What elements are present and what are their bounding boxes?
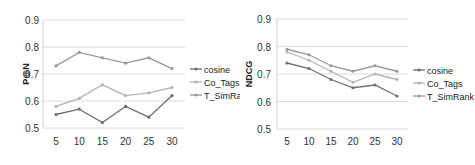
series-t-simrank xyxy=(54,51,173,70)
legend-label: Co_Tags xyxy=(427,79,463,89)
data-point xyxy=(147,116,150,119)
data-point xyxy=(101,121,104,124)
x-tick-label: 15 xyxy=(325,136,337,147)
data-point xyxy=(285,61,288,64)
data-point xyxy=(351,70,354,73)
data-point xyxy=(395,78,398,81)
data-point xyxy=(329,78,332,81)
legend-label: cosine xyxy=(204,65,230,75)
data-point xyxy=(147,56,150,59)
series-cosine xyxy=(54,94,173,124)
data-point xyxy=(54,105,57,108)
data-point xyxy=(285,50,288,53)
x-tick-label: 30 xyxy=(166,136,178,147)
y-tick-label: 0.5 xyxy=(25,123,39,134)
chart-ndcg: 0.50.60.70.80.9NDCG51015202530cosineCo_T… xyxy=(240,0,475,165)
data-point xyxy=(101,56,104,59)
y-tick-label: 0.9 xyxy=(25,15,39,26)
data-point xyxy=(307,53,310,56)
x-tick-label: 30 xyxy=(391,136,403,147)
data-point xyxy=(78,97,81,100)
data-point xyxy=(351,86,354,89)
data-point xyxy=(78,51,81,54)
data-point xyxy=(54,113,57,116)
data-point xyxy=(170,94,173,97)
y-tick-label: 0.5 xyxy=(257,124,271,135)
data-point xyxy=(395,94,398,97)
data-point xyxy=(307,59,310,62)
x-tick-label: 25 xyxy=(369,136,381,147)
legend-item: Co_Tags xyxy=(190,78,240,88)
x-tick-label: 20 xyxy=(347,136,359,147)
data-point xyxy=(124,94,127,97)
x-tick-label: 10 xyxy=(74,136,86,147)
data-point xyxy=(170,86,173,89)
y-tick-label: 0.8 xyxy=(257,42,271,53)
x-tick-label: 20 xyxy=(120,136,132,147)
y-tick-label: 0.7 xyxy=(257,69,271,80)
legend-label: Co_Tags xyxy=(204,78,240,88)
y-tick-label: 0.6 xyxy=(257,97,271,108)
x-tick-label: 15 xyxy=(97,136,109,147)
legend-item: T_SimRank xyxy=(413,92,475,102)
y-tick-label: 0.9 xyxy=(257,14,271,25)
series-co-tags xyxy=(54,83,173,108)
data-point xyxy=(373,64,376,67)
y-axis-label: NDCG xyxy=(244,61,254,88)
data-point xyxy=(307,67,310,70)
x-tick-label: 10 xyxy=(303,136,315,147)
gridlines xyxy=(277,19,408,129)
legend-label: T_SimRank xyxy=(204,91,240,101)
gridlines xyxy=(43,20,185,128)
data-point xyxy=(395,70,398,73)
legend-item: Co_Tags xyxy=(413,79,463,89)
data-point xyxy=(373,72,376,75)
data-point xyxy=(351,81,354,84)
y-tick-label: 0.8 xyxy=(25,42,39,53)
legend-label: cosine xyxy=(427,66,453,76)
x-tick-label: 25 xyxy=(143,136,155,147)
series-t-simrank xyxy=(285,48,398,73)
data-point xyxy=(329,70,332,73)
data-point xyxy=(78,108,81,111)
legend-item: cosine xyxy=(413,66,453,76)
x-tick-label: 5 xyxy=(284,136,290,147)
data-point xyxy=(170,67,173,70)
legend-item: T_SimRank xyxy=(190,91,240,101)
data-point xyxy=(147,91,150,94)
legend-item: cosine xyxy=(190,65,230,75)
data-point xyxy=(101,83,104,86)
x-tick-label: 5 xyxy=(53,136,59,147)
y-tick-label: 0.6 xyxy=(25,96,39,107)
legend-label: T_SimRank xyxy=(427,92,475,102)
data-point xyxy=(373,83,376,86)
data-point xyxy=(124,62,127,65)
data-point xyxy=(54,64,57,67)
data-point xyxy=(285,48,288,51)
data-point xyxy=(124,105,127,108)
chart-p-at-n: 0.50.60.70.80.9P@N51015202530cosineCo_Ta… xyxy=(0,0,240,165)
data-point xyxy=(329,64,332,67)
y-axis-label: P@N xyxy=(21,63,31,84)
